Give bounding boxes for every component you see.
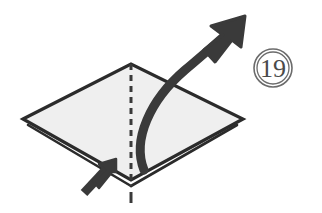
origami-step-figure: 19 <box>0 0 322 213</box>
step-number-label: 19 <box>260 54 286 83</box>
diagram-canvas: 19 Step 19: fold the near flap upward al… <box>0 0 322 213</box>
paper-group <box>23 64 243 186</box>
fold-arrow-head-icon <box>204 16 245 62</box>
step-number-badge: 19 <box>254 49 292 87</box>
paper-diamond-shape <box>23 64 243 180</box>
small-push-arrow <box>84 159 116 193</box>
